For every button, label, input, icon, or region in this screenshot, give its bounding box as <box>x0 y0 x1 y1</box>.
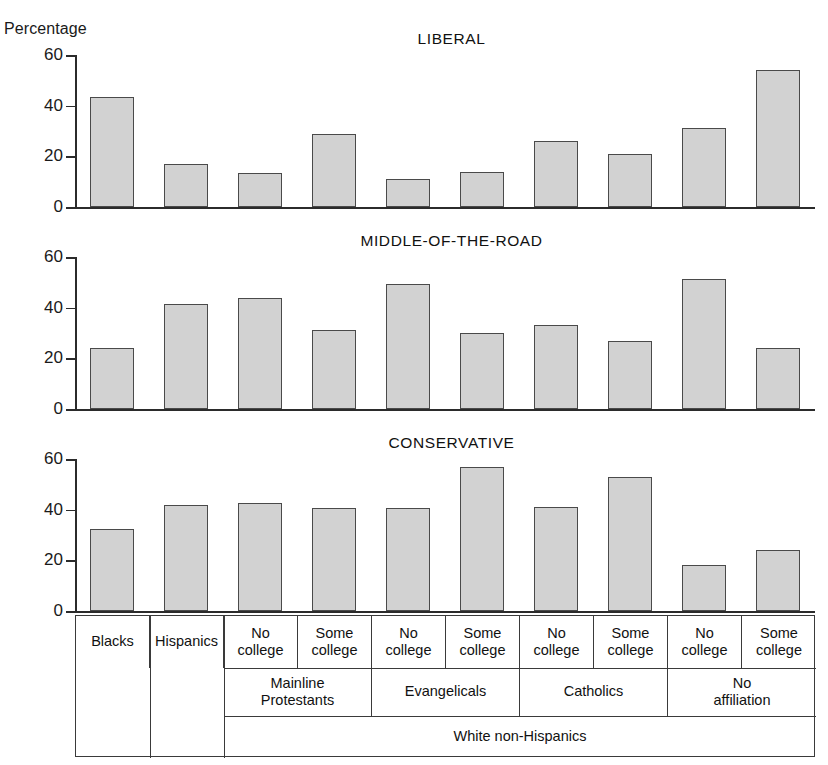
bar <box>534 507 578 611</box>
bar <box>238 298 282 409</box>
bar <box>756 70 800 207</box>
bar <box>164 164 208 207</box>
bar <box>386 284 430 409</box>
table-group-header-text: Evangelicals <box>405 683 486 700</box>
y-axis-tick-label: 0 <box>54 197 63 217</box>
bar <box>386 508 430 611</box>
y-axis-tick-label: 0 <box>54 399 63 419</box>
table-column-header-text: Nocollege <box>682 625 728 659</box>
table-supergroup-header-text: White non-Hispanics <box>454 728 587 745</box>
table-column-header: Blacks <box>76 616 150 668</box>
y-axis-line <box>75 459 77 613</box>
table-column-header: Nocollege <box>224 616 298 668</box>
table-column-header: Nocollege <box>520 616 594 668</box>
table-supergroup-header: White non-Hispanics <box>224 716 816 758</box>
table-group-header: Noaffiliation <box>668 668 816 716</box>
table-column-header: Nocollege <box>668 616 742 668</box>
panel-title: LIBERAL <box>75 30 828 48</box>
bar <box>534 141 578 207</box>
bar <box>682 565 726 611</box>
panel-title: MIDDLE-OF-THE-ROAD <box>75 232 828 250</box>
table-column-header: Somecollege <box>298 616 372 668</box>
table-column-header-text: Somecollege <box>312 625 358 659</box>
bar <box>238 503 282 611</box>
y-axis-tick <box>66 560 75 562</box>
bar <box>608 477 652 611</box>
table-group-header-text: Catholics <box>564 683 624 700</box>
x-axis-baseline <box>75 207 815 209</box>
y-axis-tick-label: 20 <box>44 550 63 570</box>
plot-area: 0204060 <box>75 459 815 611</box>
table-group-header: Catholics <box>520 668 668 716</box>
bar <box>90 97 134 207</box>
bar <box>90 529 134 611</box>
bar <box>756 550 800 611</box>
plot-area: 0204060 <box>75 257 815 409</box>
bar <box>312 330 356 409</box>
bar <box>460 333 504 409</box>
y-axis-tick-label: 20 <box>44 348 63 368</box>
bar <box>608 341 652 409</box>
y-axis-tick <box>66 156 75 158</box>
y-axis-tick-label: 20 <box>44 146 63 166</box>
y-axis-tick <box>66 106 75 108</box>
table-column-header-text: Blacks <box>91 633 134 650</box>
table-group-header: MainlineProtestants <box>224 668 372 716</box>
bar <box>460 172 504 207</box>
y-axis-tick-label: 40 <box>44 500 63 520</box>
y-axis-tick <box>66 55 75 57</box>
x-axis-baseline <box>75 611 815 613</box>
bar <box>608 154 652 207</box>
y-axis-tick-label: 0 <box>54 601 63 621</box>
y-axis-tick <box>66 308 75 310</box>
y-axis-tick <box>66 510 75 512</box>
table-column-header: Somecollege <box>446 616 520 668</box>
y-axis-tick <box>66 358 75 360</box>
panel-title: CONSERVATIVE <box>75 434 828 452</box>
table-column-header-text: Nocollege <box>534 625 580 659</box>
plot-area: 0204060 <box>75 55 815 207</box>
bar <box>312 134 356 207</box>
bar <box>534 325 578 409</box>
table-column-header: Hispanics <box>150 616 224 668</box>
bar <box>238 173 282 207</box>
table-group-header-text: Noaffiliation <box>714 675 771 709</box>
table-column-header-text: Hispanics <box>155 633 218 650</box>
table-column-header: Somecollege <box>594 616 668 668</box>
bar <box>386 179 430 207</box>
y-axis-tick <box>66 409 75 411</box>
y-axis-tick <box>66 257 75 259</box>
bar <box>460 467 504 611</box>
table-column-header-text: Nocollege <box>238 625 284 659</box>
table-column-header-text: Somecollege <box>460 625 506 659</box>
y-axis-tick-label: 40 <box>44 298 63 318</box>
table-column-header: Nocollege <box>372 616 446 668</box>
x-axis-baseline <box>75 409 815 411</box>
table-group-header: Evangelicals <box>372 668 520 716</box>
bar <box>164 505 208 611</box>
chart-page: Percentage LIBERAL0204060MIDDLE-OF-THE-R… <box>0 0 828 765</box>
bar <box>682 279 726 409</box>
table-group-header-text: MainlineProtestants <box>261 675 334 709</box>
bar <box>90 348 134 409</box>
table-column-header-text: Nocollege <box>386 625 432 659</box>
category-label-table: BlacksHispanicsNocollegeSomecollegeNocol… <box>75 615 815 757</box>
table-column-header-text: Somecollege <box>608 625 654 659</box>
y-axis-tick <box>66 611 75 613</box>
table-column-header-text: Somecollege <box>756 625 802 659</box>
bar <box>164 304 208 409</box>
y-axis-tick-label: 60 <box>44 449 63 469</box>
bar <box>312 508 356 611</box>
y-axis-tick-label: 60 <box>44 247 63 267</box>
y-axis-line <box>75 55 77 209</box>
bar <box>682 128 726 207</box>
y-axis-tick <box>66 459 75 461</box>
y-axis-tick-label: 40 <box>44 96 63 116</box>
y-axis-tick-label: 60 <box>44 45 63 65</box>
bar <box>756 348 800 409</box>
y-axis-tick <box>66 207 75 209</box>
y-axis-line <box>75 257 77 411</box>
table-column-header: Somecollege <box>742 616 816 668</box>
